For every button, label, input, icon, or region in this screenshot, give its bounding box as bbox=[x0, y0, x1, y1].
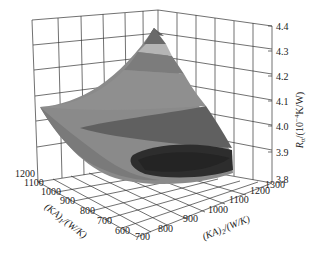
z-axis-ticks: 4.4 4.3 4.2 4.1 4.0 3.9 3.8 bbox=[276, 21, 289, 185]
z-tick: 3.9 bbox=[276, 147, 289, 158]
x-tick: 900 bbox=[60, 195, 75, 206]
z-tick: 4.0 bbox=[276, 121, 289, 132]
y-tick: 1300 bbox=[265, 179, 285, 190]
svg-text:(KA)2/(W/K): (KA)2/(W/K) bbox=[201, 213, 253, 244]
chart-canvas: 4.4 4.3 4.2 4.1 4.0 3.9 3.8 Rtt/(10−4K/W… bbox=[0, 0, 320, 256]
y-tick: 700 bbox=[135, 231, 150, 242]
y-tick: 1000 bbox=[208, 204, 228, 215]
x-tick: 800 bbox=[80, 205, 95, 216]
x-tick: 1000 bbox=[41, 186, 61, 197]
surface bbox=[40, 28, 233, 184]
z-axis-tick-marks bbox=[268, 26, 272, 152]
z-tick: 4.2 bbox=[276, 71, 289, 82]
x-tick: 600 bbox=[115, 225, 130, 236]
y-tick: 800 bbox=[158, 223, 173, 234]
y-tick: 1100 bbox=[229, 194, 249, 205]
x-tick: 700 bbox=[97, 215, 112, 226]
z-tick: 4.4 bbox=[276, 21, 289, 32]
z-tick: 4.1 bbox=[276, 96, 289, 107]
svg-text:Rtt/(10−4K/W): Rtt/(10−4K/W) bbox=[293, 92, 307, 149]
y-tick: 900 bbox=[183, 213, 198, 224]
y-axis-label: (KA)2/(W/K) bbox=[201, 213, 253, 244]
surface-chart: 4.4 4.3 4.2 4.1 4.0 3.9 3.8 Rtt/(10−4K/W… bbox=[0, 0, 320, 256]
z-tick: 4.3 bbox=[276, 46, 289, 57]
z-axis-label: Rtt/(10−4K/W) bbox=[293, 92, 307, 149]
